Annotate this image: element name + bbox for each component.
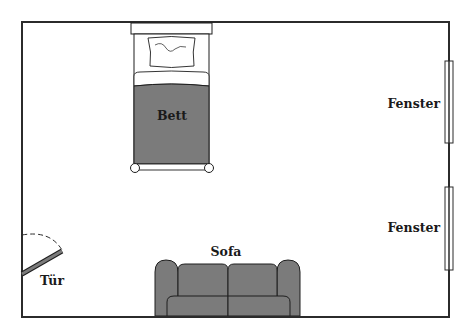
window-2 bbox=[445, 187, 453, 270]
bed-label: Bett bbox=[157, 108, 187, 123]
bed bbox=[131, 23, 214, 173]
pillow-icon bbox=[148, 37, 195, 68]
floor-plan: Fenster Fenster Bett Tür bbox=[0, 0, 471, 336]
door-label: Tür bbox=[40, 273, 64, 288]
bed-caster-right bbox=[205, 164, 214, 173]
window-1 bbox=[445, 61, 453, 143]
window-2-label: Fenster bbox=[387, 220, 440, 235]
door bbox=[22, 234, 62, 274]
sofa-back-cushion-left bbox=[178, 264, 228, 298]
window-1-label: Fenster bbox=[387, 96, 440, 111]
sofa-back-cushion-right bbox=[228, 264, 277, 298]
sofa-seat-cushion-left bbox=[167, 296, 228, 316]
sofa-label: Sofa bbox=[211, 244, 242, 259]
bed-headboard bbox=[131, 23, 212, 34]
bed-caster-left bbox=[131, 164, 140, 173]
sofa bbox=[155, 260, 300, 316]
sofa-seat-cushion-right bbox=[228, 296, 290, 316]
door-swing-arc bbox=[22, 234, 62, 250]
bed-blanket bbox=[134, 84, 209, 164]
